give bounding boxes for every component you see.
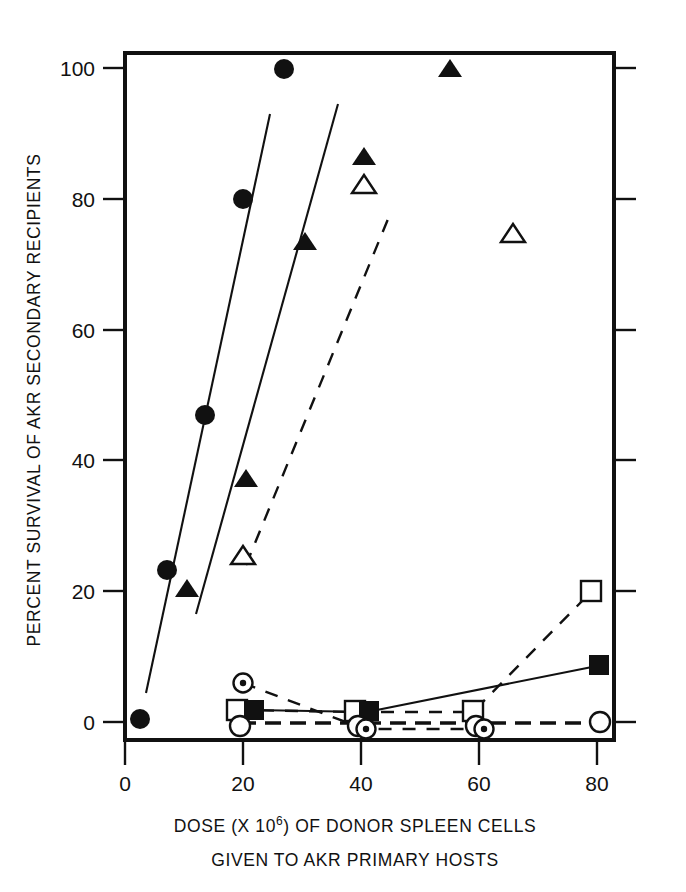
data-point-open-circle (230, 716, 250, 736)
x-axis-title: DOSE (X 106) OF DONOR SPLEEN CELLS GIVEN… (174, 814, 537, 870)
y-axis-title: PERCENT SURVIVAL OF AKR SECONDARY RECIPI… (24, 154, 44, 647)
data-point-filled-circle (274, 59, 294, 79)
data-point-open-circle (590, 712, 610, 732)
y-tick-label-80: 80 (72, 188, 95, 211)
data-point-open-square (581, 581, 601, 601)
data-point-dotted-circle (475, 720, 494, 739)
data-point-dotted-circle (234, 674, 253, 693)
data-point-filled-circle (157, 560, 177, 580)
series-filled-circle-markers (130, 59, 294, 729)
x-axis-title-prefix: DOSE (X 10 (174, 816, 276, 836)
x-axis-title-line1: DOSE (X 106) OF DONOR SPLEEN CELLS (174, 814, 537, 836)
y-axis-ticks-right (614, 68, 636, 722)
trend-line-open-square (237, 592, 591, 712)
y-tick-label-0: 0 (83, 711, 95, 734)
data-point-open-triangle (501, 224, 525, 242)
data-point-filled-triangle (234, 469, 258, 487)
data-point-dotted-circle (357, 720, 376, 739)
dotted-circle-core (240, 680, 246, 686)
trend-line-filled-square (252, 666, 597, 712)
x-axis-ticks (125, 740, 597, 765)
x-axis-title-suffix: ) OF DONOR SPLEEN CELLS (283, 816, 536, 836)
data-point-filled-circle (233, 189, 253, 209)
dotted-circle-core (363, 726, 369, 732)
x-axis-title-line2: GIVEN TO AKR PRIMARY HOSTS (211, 850, 499, 870)
data-point-filled-triangle (175, 579, 199, 597)
y-tick-label-100: 100 (60, 57, 95, 80)
x-axis-title-exponent: 6 (276, 814, 283, 828)
data-point-filled-square (589, 655, 609, 675)
x-tick-label-60: 60 (467, 772, 490, 795)
y-tick-label-40: 40 (72, 449, 95, 472)
data-point-filled-circle (195, 405, 215, 425)
y-axis-ticks-left (103, 68, 125, 722)
data-point-filled-square (244, 700, 264, 720)
x-tick-label-20: 20 (231, 772, 254, 795)
data-point-filled-triangle (352, 147, 376, 165)
data-point-filled-circle (130, 709, 150, 729)
figure-container: 0 20 40 60 80 100 0 20 40 60 80 PERCENT … (0, 0, 686, 892)
x-tick-label-0: 0 (119, 772, 131, 795)
data-point-filled-triangle (293, 232, 317, 250)
y-axis-title-text: PERCENT SURVIVAL OF AKR SECONDARY RECIPI… (24, 154, 44, 647)
y-axis-tick-labels: 0 20 40 60 80 100 (60, 57, 95, 734)
series-open-square-markers (227, 581, 601, 721)
data-point-filled-triangle (438, 59, 462, 77)
x-tick-label-80: 80 (585, 772, 608, 795)
trend-line-open-triangle (246, 219, 388, 565)
series-filled-triangle-markers (175, 59, 462, 597)
x-tick-label-40: 40 (349, 772, 372, 795)
y-tick-label-60: 60 (72, 319, 95, 342)
y-tick-label-20: 20 (72, 580, 95, 603)
x-axis-tick-labels: 0 20 40 60 80 (119, 772, 609, 795)
dotted-circle-core (481, 726, 487, 732)
series-open-triangle-markers (231, 175, 525, 564)
scatter-plot: 0 20 40 60 80 100 0 20 40 60 80 PERCENT … (0, 0, 686, 892)
svg-text:PERCENT SURVIVAL OF AKR SECOND: PERCENT SURVIVAL OF AKR SECONDARY RECIPI… (24, 154, 44, 647)
data-point-open-triangle (352, 175, 376, 193)
